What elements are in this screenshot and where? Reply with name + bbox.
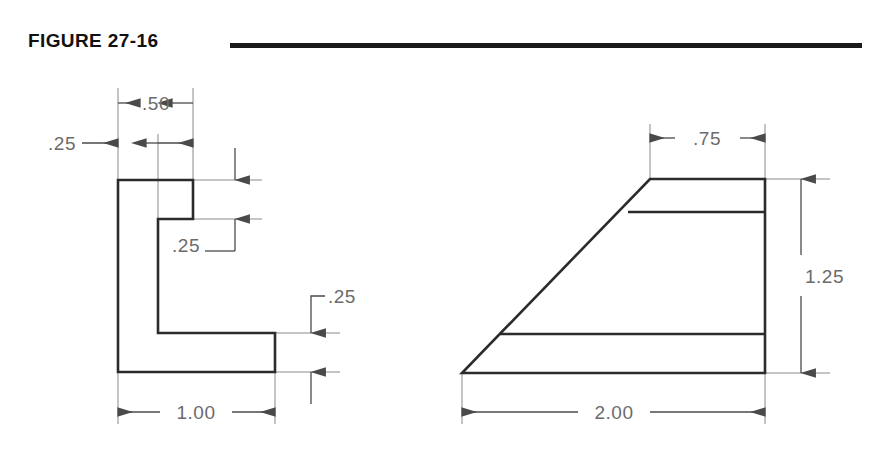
l-profile-outline (118, 180, 275, 372)
dim-right-200: 2.00 (462, 402, 765, 423)
dim-label-025-top: .25 (48, 133, 76, 154)
technical-drawing-canvas: .25 .50 .25 (0, 0, 882, 452)
dim-leader-base (311, 296, 325, 301)
dim-left-025-top: .25 (48, 133, 118, 154)
dim-left-100: 1.00 (118, 402, 275, 423)
dim-label-050: .50 (142, 93, 170, 114)
dim-left-025-notch: .25 (172, 148, 235, 256)
dim-label-025-base: .25 (328, 286, 356, 307)
dim-right-125: 1.25 (801, 179, 844, 373)
dim-left-025-base: .25 (311, 286, 356, 404)
figure-container: FIGURE 27-16 (0, 0, 882, 452)
left-view-extension-lines (118, 88, 340, 424)
dim-left-050: .50 (118, 93, 193, 114)
trapezoid-outline (462, 179, 765, 373)
dim-label-125: 1.25 (805, 266, 844, 287)
dim-label-075: .75 (693, 128, 721, 149)
dim-label-100: 1.00 (177, 402, 216, 423)
left-view-group: .25 .50 .25 (48, 88, 356, 424)
right-view-group: .75 1.25 2.00 (462, 124, 844, 424)
dim-label-200: 2.00 (595, 402, 634, 423)
dim-right-075: .75 (650, 128, 765, 149)
right-view-extension-lines (462, 124, 830, 424)
dim-label-025-notch: .25 (172, 235, 200, 256)
